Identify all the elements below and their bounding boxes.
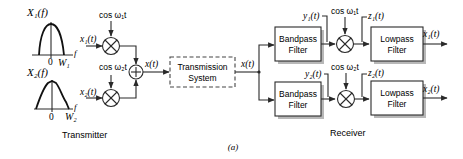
rx-z2-label: z₂(t) — [367, 68, 384, 79]
tx-mixer2-to-adder — [120, 80, 136, 98]
rx-multiplier1-icon — [337, 36, 354, 53]
tx-adder-icon — [129, 65, 143, 79]
tx-multiplier1-icon — [103, 38, 120, 55]
rx-z1-leader — [362, 17, 367, 42]
lowpass2-label-1: Lowpass — [380, 88, 414, 98]
tx-multiplier2-icon — [103, 90, 120, 107]
tx-input2-label: x₂(t) — [79, 87, 97, 98]
bandpass2-label-2: Filter — [289, 100, 308, 110]
tx-input1-label: x₁(t) — [79, 34, 97, 45]
receiver-branch-2: Bandpass Filter y₂(t) cos ω₂t z₂(t) Lowp… — [275, 62, 447, 138]
channel: Transmission System x(t) — [170, 45, 274, 100]
fdm-block-diagram: X₁(f) 0 W₁ f X₂(f) 0 W₂ f cos ω₁t x₁(t) — [0, 0, 463, 159]
spectrum2-label: X₂(f) — [26, 66, 48, 79]
tx-carrier2-label: cos ω₂t — [99, 62, 128, 72]
channel-output-label: x(t) — [240, 59, 254, 70]
lowpass1-label-2: Filter — [388, 45, 407, 55]
bandpass-filter-1 — [275, 27, 321, 61]
split-to-branch1 — [259, 45, 274, 72]
lowpass-filter-2 — [371, 81, 423, 115]
tx-carrier1-label: cos ω₁t — [99, 10, 127, 20]
rx-output1-label: x₁(t) — [422, 29, 440, 40]
transmitter: cos ω₁t x₁(t) cos ω₂t x₂(t) — [62, 10, 169, 140]
spectrum-plot-1: X₁(f) 0 W₁ f — [26, 6, 78, 68]
rx-multiplier2-icon — [338, 91, 355, 108]
spectrum1-zero: 0 — [48, 57, 53, 67]
bandpass2-label-1: Bandpass — [279, 89, 317, 99]
bandpass-filter-2 — [275, 82, 321, 116]
lowpass1-label-1: Lowpass — [380, 34, 414, 44]
rx-z1-label: z₁(t) — [367, 11, 384, 22]
spectrum2-zero: 0 — [49, 112, 54, 122]
transmission-system-label-2: System — [188, 73, 216, 83]
spectrum2-axis-label: f — [74, 102, 78, 112]
tx-sum-output-label: x(t) — [144, 59, 158, 70]
rx-y1-label: y₁(t) — [302, 11, 320, 22]
spectrum1-bandwidth: W₁ — [58, 57, 70, 68]
bandpass1-label-2: Filter — [289, 45, 308, 55]
rx-carrier1-label: cos ω₁t — [331, 6, 359, 16]
rx-y2-leader — [324, 74, 328, 97]
spectrum-plot-2: X₂(f) 0 W₂ f — [26, 66, 78, 122]
spectrum1-label: X₁(f) — [26, 6, 48, 19]
rx-z2-leader — [362, 74, 367, 97]
split-to-branch2 — [259, 72, 274, 100]
spectrum1-axis-label: f — [74, 48, 78, 58]
lowpass-filter-1 — [371, 27, 423, 61]
spectrum2-bandwidth: W₂ — [65, 111, 77, 122]
bandpass1-label-1: Bandpass — [279, 34, 317, 44]
rx-carrier2-label: cos ω₂t — [331, 62, 360, 72]
receiver-label: Receiver — [330, 128, 366, 138]
transmitter-label: Transmitter — [62, 130, 107, 140]
figure-caption: (a) — [228, 142, 239, 152]
transmission-system-label-1: Transmission — [177, 62, 227, 72]
rx-y2-label: y₂(t) — [304, 69, 322, 80]
rx-output2-label: x₂(t) — [422, 84, 440, 95]
receiver-branch-1: Bandpass Filter y₁(t) cos ω₁t z₁(t) Lowp… — [275, 6, 447, 64]
lowpass2-label-2: Filter — [388, 99, 407, 109]
